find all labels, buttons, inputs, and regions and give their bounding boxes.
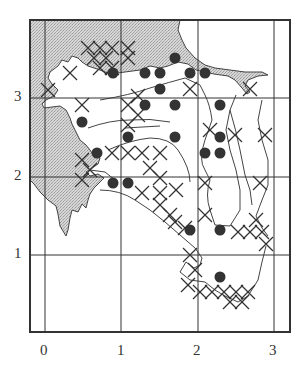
dot-marker	[77, 117, 88, 128]
x-tick-1: 1	[117, 342, 125, 359]
dot-marker	[170, 53, 181, 64]
dot-marker	[215, 132, 226, 143]
dot-marker	[185, 225, 196, 236]
dot-marker	[215, 100, 226, 111]
distribution-map	[0, 0, 308, 370]
dot-marker	[92, 148, 103, 159]
x-tick-3: 3	[269, 342, 277, 359]
dot-marker	[123, 178, 134, 189]
y-tick-2: 2	[14, 167, 22, 184]
x-tick-0: 0	[40, 342, 48, 359]
dot-marker	[215, 272, 226, 283]
dot-marker	[215, 225, 226, 236]
dot-marker	[140, 100, 151, 111]
y-tick-1: 1	[14, 245, 22, 262]
dot-marker	[200, 148, 211, 159]
dot-marker	[108, 178, 119, 189]
dot-marker	[170, 132, 181, 143]
dot-marker	[108, 68, 119, 79]
dot-marker	[215, 148, 226, 159]
y-tick-3: 3	[14, 88, 22, 105]
dot-marker	[140, 68, 151, 79]
dot-marker	[155, 68, 166, 79]
dot-marker	[170, 100, 181, 111]
land-mass	[30, 20, 268, 236]
dot-marker	[200, 68, 211, 79]
dot-marker	[123, 132, 134, 143]
dot-marker	[185, 68, 196, 79]
x-tick-2: 2	[193, 342, 201, 359]
dot-marker	[155, 84, 166, 95]
shoreline-contours	[88, 78, 268, 302]
